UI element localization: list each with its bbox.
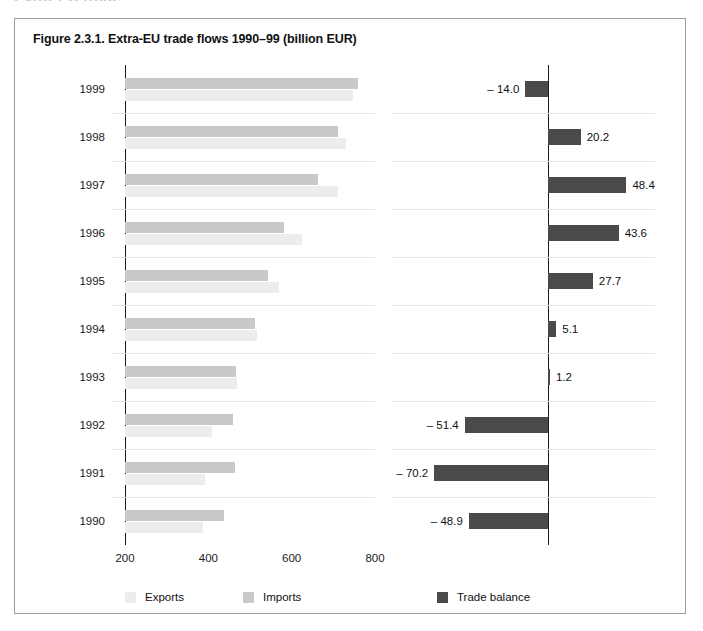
- exports-bar: [125, 138, 346, 149]
- trade-balance-value-label: 43.6: [625, 227, 647, 239]
- trade-balance-value-label: 27.7: [599, 275, 621, 287]
- imports-bar: [125, 78, 358, 89]
- imports-bar: [125, 414, 233, 425]
- chart-plot-area: 1999199819971996199519941993199219911990…: [33, 65, 667, 565]
- imports-bar: [125, 174, 318, 185]
- row-gridline: [391, 353, 655, 354]
- row-gridline: [391, 449, 655, 450]
- imports-bar: [125, 366, 236, 377]
- trade-balance-value-label: 20.2: [587, 131, 609, 143]
- year-label: 1991: [43, 467, 105, 479]
- figure-page: Extra-EU trade Figure 2.3.1. Extra-EU tr…: [0, 0, 703, 631]
- trade-balance-bar: [548, 369, 550, 385]
- year-label: 1994: [43, 323, 105, 335]
- trade-balance-bar: [548, 273, 593, 289]
- figure-container: Figure 2.3.1. Extra-EU trade flows 1990–…: [14, 18, 686, 614]
- year-label: 1997: [43, 179, 105, 191]
- exports-bar: [125, 90, 353, 101]
- trade-balance-bar: [525, 81, 548, 97]
- row-gridline: [391, 257, 655, 258]
- imports-bar: [125, 318, 255, 329]
- trade-balance-value-label: – 51.4: [427, 419, 459, 431]
- imports-bar: [125, 126, 338, 137]
- imports-bar: [125, 270, 268, 281]
- trade-balance-bar: [548, 177, 626, 193]
- row-gridline: [111, 257, 375, 258]
- x-axis-tick-label: 600: [282, 552, 301, 564]
- legend-label-imports: Imports: [263, 591, 301, 603]
- trade-balance-bar: [465, 417, 548, 433]
- year-label: 1993: [43, 371, 105, 383]
- year-label: 1990: [43, 515, 105, 527]
- row-gridline: [111, 113, 375, 114]
- exports-bar: [125, 474, 205, 485]
- exports-bar: [125, 522, 203, 533]
- x-axis-tick-label: 400: [199, 552, 218, 564]
- imports-swatch-icon: [243, 592, 254, 603]
- row-gridline: [391, 209, 655, 210]
- row-gridline: [391, 497, 655, 498]
- trade-balance-bar: [548, 129, 581, 145]
- year-axis-labels: 1999199819971996199519941993199219911990: [33, 65, 105, 545]
- row-gridline: [391, 401, 655, 402]
- exports-bar: [125, 282, 279, 293]
- legend-item-exports: Exports: [125, 591, 184, 603]
- imports-bar: [125, 462, 235, 473]
- exports-bar: [125, 378, 237, 389]
- exports-bar: [125, 426, 212, 437]
- x-axis-tick-label: 200: [115, 552, 134, 564]
- trade-balance-value-label: 1.2: [556, 371, 572, 383]
- row-gridline: [111, 401, 375, 402]
- trade-balance-bar: [548, 225, 619, 241]
- row-gridline: [391, 305, 655, 306]
- exports-swatch-icon: [125, 592, 136, 603]
- legend-label-exports: Exports: [145, 591, 184, 603]
- row-gridline: [111, 305, 375, 306]
- year-label: 1992: [43, 419, 105, 431]
- row-gridline: [391, 161, 655, 162]
- trade-balance-value-label: – 70.2: [396, 467, 428, 479]
- year-label: 1999: [43, 83, 105, 95]
- x-axis-tick-label: 800: [365, 552, 384, 564]
- legend-item-trade-balance: Trade balance: [437, 591, 530, 603]
- trade-flows-panel: [111, 65, 375, 545]
- figure-title: Figure 2.3.1. Extra-EU trade flows 1990–…: [33, 32, 357, 46]
- row-gridline: [111, 449, 375, 450]
- trade-balance-value-label: – 48.9: [431, 515, 463, 527]
- cut-off-section-heading: Extra-EU trade: [14, 0, 121, 1]
- legend-label-trade-balance: Trade balance: [457, 591, 530, 603]
- x-axis-ticks: 200400600800: [111, 552, 375, 568]
- exports-bar: [125, 330, 257, 341]
- exports-bar: [125, 186, 338, 197]
- chart-legend: Exports Imports Trade balance: [33, 591, 667, 611]
- legend-item-imports: Imports: [243, 591, 301, 603]
- trade-balance-bar: [469, 513, 548, 529]
- row-gridline: [111, 353, 375, 354]
- year-label: 1998: [43, 131, 105, 143]
- row-gridline: [111, 161, 375, 162]
- trade-balance-bar: [548, 321, 556, 337]
- row-gridline: [391, 113, 655, 114]
- trade-balance-value-label: 48.4: [632, 179, 654, 191]
- imports-bar: [125, 510, 224, 521]
- trade-balance-panel: – 14.020.248.443.627.75.11.2– 51.4– 70.2…: [391, 65, 655, 545]
- exports-bar: [125, 234, 302, 245]
- trade-balance-value-label: – 14.0: [487, 83, 519, 95]
- year-label: 1995: [43, 275, 105, 287]
- row-gridline: [111, 497, 375, 498]
- trade-balance-swatch-icon: [437, 592, 448, 603]
- trade-balance-bar: [434, 465, 548, 481]
- imports-bar: [125, 222, 284, 233]
- trade-balance-value-label: 5.1: [562, 323, 578, 335]
- row-gridline: [111, 209, 375, 210]
- year-label: 1996: [43, 227, 105, 239]
